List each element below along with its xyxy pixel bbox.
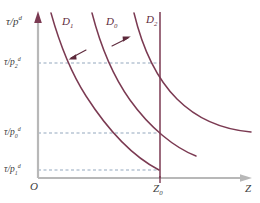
- d1-base: D: [62, 15, 70, 27]
- tick0-superscript: d: [18, 126, 21, 132]
- x-axis-arrowhead: [240, 174, 252, 182]
- y-axis-arrowhead: [34, 11, 42, 23]
- dashed-guide-lines: [38, 63, 160, 170]
- curve-d1: [51, 13, 159, 170]
- tick1-superscript: d: [18, 163, 21, 169]
- tick2-superscript: d: [18, 56, 21, 62]
- y-axis-label: τ/pd: [6, 15, 22, 27]
- d2-subscript: 2: [154, 20, 157, 27]
- curve-d2: [134, 13, 251, 132]
- x-tick-label-z0: Z0: [153, 183, 163, 197]
- curve-label-d2: D2: [146, 14, 157, 28]
- arrow-shift-right-icon: [112, 36, 131, 46]
- figure-canvas: [0, 0, 260, 203]
- demand-curve-figure: τ/pd τ/p2d τ/p0d τ/p1d O Z0 Z D1 D0 D2: [0, 0, 260, 203]
- tick2-subscript: 2: [15, 63, 18, 69]
- y-tick-label-tau-p1: τ/p1d: [4, 164, 21, 177]
- y-axis-superscript: d: [19, 14, 22, 21]
- curve-label-d1: D1: [62, 16, 73, 30]
- curve-label-d0: D0: [106, 16, 117, 30]
- origin-label: O: [30, 181, 38, 192]
- d0-subscript: 0: [114, 22, 117, 29]
- y-axis: [34, 11, 42, 178]
- z0-subscript: 0: [159, 189, 162, 196]
- d0-base: D: [106, 15, 114, 27]
- tick1-subscript: 1: [15, 170, 18, 176]
- x-axis-label: Z: [245, 183, 251, 194]
- y-tick-label-tau-p0: τ/p0d: [4, 127, 21, 140]
- curve-d0: [92, 13, 196, 156]
- x-axis: [38, 174, 252, 182]
- tick0-subscript: 0: [15, 133, 18, 139]
- arrow-shift-left-icon: [69, 50, 87, 60]
- y-tick-label-tau-p2: τ/p2d: [4, 57, 21, 70]
- d2-base: D: [146, 13, 154, 25]
- d1-subscript: 1: [70, 22, 73, 29]
